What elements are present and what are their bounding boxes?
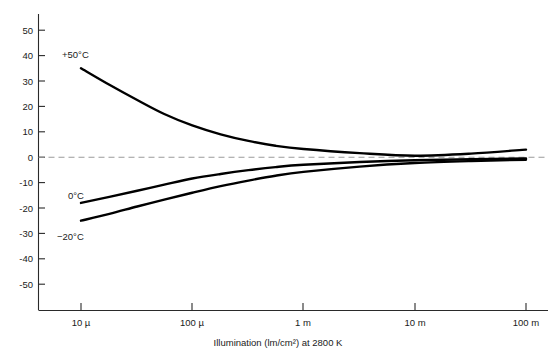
y-tick-label-neg10: -10: [19, 177, 33, 188]
series-line-plus50c: [81, 68, 526, 155]
x-axis-ticks: 10 µ 100 µ 1 m 10 m 100 m: [72, 303, 540, 328]
y-tick-label-0: 0: [28, 152, 33, 163]
y-tick-label-10: 10: [22, 126, 33, 137]
data-series-group: [81, 68, 526, 220]
series-label-minus20c: −20°C: [57, 231, 84, 242]
x-axis-title: Illumination (lm/cm²) at 2800 K: [214, 337, 343, 348]
y-tick-label-40: 40: [22, 50, 33, 61]
y-tick-label-neg40: -40: [19, 253, 33, 264]
series-label-plus50c: +50°C: [62, 49, 89, 60]
x-tick-label-10u: 10 µ: [72, 317, 91, 328]
series-label-0c: 0°C: [68, 190, 84, 201]
y-tick-label-30: 30: [22, 76, 33, 87]
y-tick-label-neg50: -50: [19, 279, 33, 290]
x-tick-label-100u: 100 µ: [180, 317, 204, 328]
x-tick-label-100m: 100 m: [513, 317, 539, 328]
y-tick-label-20: 20: [22, 101, 33, 112]
y-tick-label-neg20: -20: [19, 203, 33, 214]
x-tick-label-10m: 10 m: [404, 317, 425, 328]
figure-container: 50 40 30 20 10 0 -10 -20 -30 -40 -50: [0, 0, 557, 363]
x-tick-label-1m: 1 m: [295, 317, 311, 328]
series-line-minus20c: [81, 160, 526, 221]
y-tick-label-50: 50: [22, 25, 33, 36]
chart-canvas: 50 40 30 20 10 0 -10 -20 -30 -40 -50: [0, 0, 557, 363]
y-tick-label-neg30: -30: [19, 228, 33, 239]
series-line-0c: [81, 158, 526, 202]
series-labels-group: +50°C 0°C −20°C: [57, 49, 89, 242]
